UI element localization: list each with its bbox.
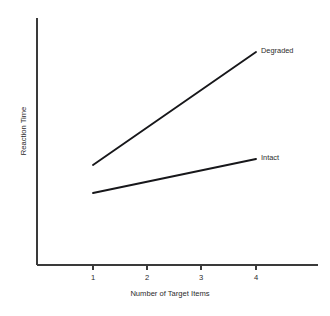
x-tick-label-3: 3 xyxy=(199,273,203,282)
x-tick-label-2: 2 xyxy=(145,273,149,282)
series-label-intact: Intact xyxy=(261,153,279,162)
series-line-degraded xyxy=(93,52,256,165)
series-label-degraded: Degraded xyxy=(261,46,293,55)
x-tick-label-4: 4 xyxy=(254,273,258,282)
chart-container: 1 2 3 4 Degraded Intact Number of Target… xyxy=(0,0,330,316)
y-axis-title: Reaction Time xyxy=(19,107,28,156)
line-chart: 1 2 3 4 Degraded Intact Number of Target… xyxy=(0,0,330,316)
x-axis-title: Number of Target Items xyxy=(130,289,209,298)
x-tick-label-1: 1 xyxy=(91,273,95,282)
series-line-intact xyxy=(93,159,256,193)
